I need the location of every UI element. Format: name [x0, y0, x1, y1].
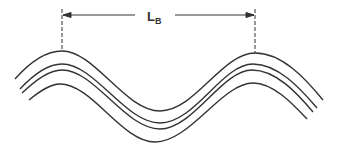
wave-curve-3: [22, 70, 313, 129]
dimension-label: LB: [147, 9, 162, 26]
wavy-layers-diagram: LB: [0, 0, 342, 151]
wave-curve-2: [20, 64, 317, 123]
wave-curve-1: [15, 51, 323, 111]
arrowhead-right-icon: [246, 13, 254, 18]
wave-curves: [15, 51, 323, 142]
wave-curve-4: [29, 83, 307, 142]
arrowhead-left-icon: [63, 13, 71, 18]
